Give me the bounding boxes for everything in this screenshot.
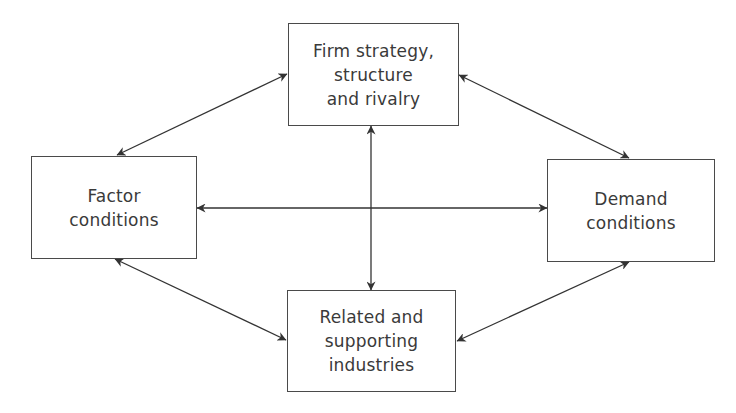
edge-firm-strategy-factor-conditions <box>117 74 287 155</box>
node-demand-conditions: Demand conditions <box>547 159 715 262</box>
node-firm-strategy: Firm strategy, structure and rivalry <box>288 23 459 126</box>
node-related-industries: Related and supporting industries <box>287 290 456 392</box>
node-factor-conditions: Factor conditions <box>31 156 197 259</box>
edge-factor-conditions-related-industries <box>115 259 286 340</box>
node-label-demand-conditions: Demand conditions <box>586 187 675 235</box>
node-label-related-industries: Related and supporting industries <box>319 305 423 377</box>
node-label-firm-strategy: Firm strategy, structure and rivalry <box>313 39 434 111</box>
edge-demand-conditions-related-industries <box>457 262 629 341</box>
node-label-factor-conditions: Factor conditions <box>69 184 158 232</box>
edge-firm-strategy-demand-conditions <box>459 75 629 158</box>
